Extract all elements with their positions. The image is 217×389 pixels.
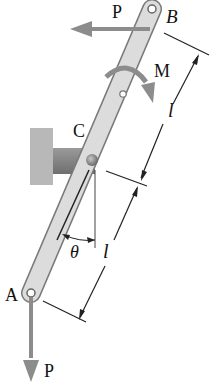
pin-b <box>148 5 156 13</box>
label-length-upper: l <box>168 100 174 120</box>
dim-ext-b <box>164 33 209 55</box>
wall-support <box>30 128 53 185</box>
diagram-canvas <box>0 0 217 389</box>
label-length-lower: l <box>103 241 109 261</box>
pin-c <box>86 154 98 166</box>
label-point-c: C <box>73 122 85 140</box>
label-force-bottom: P <box>44 362 54 380</box>
label-moment: M <box>154 62 170 80</box>
theta-arrowhead-right <box>87 237 95 243</box>
pin-a <box>27 289 35 297</box>
label-angle-theta: θ <box>70 243 79 261</box>
label-point-b: B <box>166 7 178 26</box>
label-force-top: P <box>112 3 122 21</box>
hole-mid <box>120 91 126 97</box>
force-p-bottom-arrow <box>23 297 39 382</box>
dim-ext-c <box>106 171 147 186</box>
label-point-a: A <box>5 286 18 304</box>
